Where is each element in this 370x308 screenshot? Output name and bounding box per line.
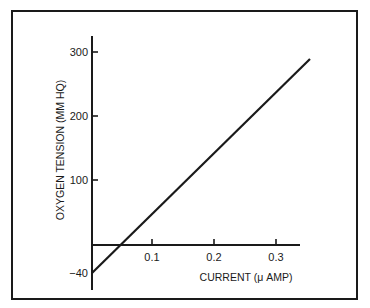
series-line bbox=[92, 59, 310, 273]
x-axis-title: CURRENT (μ AMP) bbox=[200, 271, 293, 283]
y-tick-label-100: 100 bbox=[70, 174, 88, 186]
line-chart: 300 200 100 −40 0.1 0.2 0.3 CURRENT (μ A… bbox=[0, 0, 370, 308]
y-tick-label-neg40: −40 bbox=[69, 267, 88, 279]
x-tick-label-0.3: 0.3 bbox=[268, 251, 283, 263]
x-tick-label-0.1: 0.1 bbox=[144, 251, 159, 263]
y-tick-label-300: 300 bbox=[70, 46, 88, 58]
y-tick-label-200: 200 bbox=[70, 110, 88, 122]
y-axis-title: OXYGEN TENSION (MM HQ) bbox=[54, 80, 66, 220]
x-tick-label-0.2: 0.2 bbox=[206, 251, 221, 263]
